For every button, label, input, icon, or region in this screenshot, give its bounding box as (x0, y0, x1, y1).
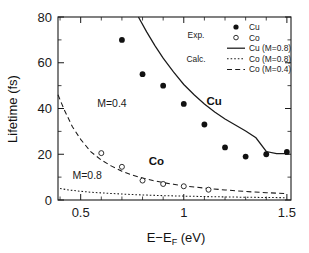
data-point-cu (119, 37, 125, 43)
data-point-cu (202, 122, 208, 128)
y-tick-label: 20 (38, 147, 52, 162)
y-tick-label: 60 (38, 55, 52, 70)
data-point-cu (263, 151, 269, 157)
lifetime-vs-energy-chart: 0.511.5020406080 M=0.4M=0.8CuCo CuCoCu (… (0, 0, 309, 253)
legend-label: Co (M=0.8) (249, 54, 291, 64)
y-axis-title: Lifetime (fs) (5, 75, 20, 143)
legend-label: Co (M=0.4) (249, 64, 291, 74)
legend-group-exp: Exp. (188, 30, 205, 40)
annotation-m08: M=0.8 (72, 169, 102, 181)
data-point-co (161, 181, 166, 186)
y-tick-label: 40 (38, 101, 52, 116)
data-point-cu (181, 101, 187, 107)
data-point-co (181, 184, 186, 189)
legend-marker-open-circle (234, 35, 239, 40)
data-point-co (206, 187, 211, 192)
data-point-co (140, 178, 145, 183)
data-point-co (99, 151, 104, 156)
legend-marker-filled-circle (233, 24, 238, 29)
annotation-cu-label: Cu (206, 95, 221, 107)
data-point-cu (243, 154, 249, 160)
annotation-m04: M=0.4 (97, 97, 127, 109)
x-tick-label: 1.5 (278, 205, 296, 220)
legend-label: Cu (249, 22, 260, 32)
x-tick-label: 0.5 (72, 205, 90, 220)
figure-container: 0.511.5020406080 M=0.4M=0.8CuCo CuCoCu (… (0, 0, 309, 253)
legend-group-calc: Calc. (186, 54, 205, 64)
legend-label: Co (249, 33, 260, 43)
annotation-co-label: Co (149, 155, 164, 167)
y-tick-label: 80 (38, 10, 52, 25)
data-point-co (119, 164, 124, 169)
legend-label: Cu (M=0.8) (249, 43, 291, 53)
data-point-cu (160, 83, 166, 89)
data-point-cu (222, 144, 228, 150)
y-tick-label: 0 (45, 193, 52, 208)
chart-background (0, 0, 309, 253)
data-point-cu (140, 71, 146, 77)
x-tick-label: 1 (180, 205, 187, 220)
data-point-cu (284, 149, 290, 155)
